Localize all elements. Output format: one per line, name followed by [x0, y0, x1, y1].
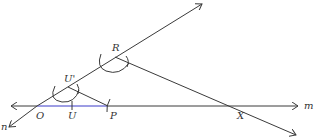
- line-n: [9, 4, 202, 127]
- label-u: U: [68, 110, 77, 121]
- label-n: n: [1, 121, 7, 132]
- label-r: R: [111, 42, 120, 53]
- label-u-prime: U': [64, 73, 75, 84]
- label-x: X: [236, 110, 245, 121]
- line-rx: [115, 57, 296, 135]
- arc-at-r: [99, 54, 129, 72]
- segment-uprime-p: [68, 87, 108, 106]
- label-m: m: [304, 100, 313, 111]
- construction-diagram: m n O U P U' R X: [0, 0, 319, 138]
- label-o: O: [36, 110, 44, 121]
- label-p: P: [109, 110, 117, 121]
